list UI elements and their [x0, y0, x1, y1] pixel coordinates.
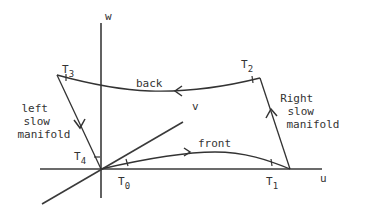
right-manifold-label: Right slow manifold	[280, 92, 339, 131]
left-manifold-label: left slow manifold	[18, 102, 71, 141]
back-label: back	[136, 77, 163, 90]
front-arrow-icon	[184, 148, 190, 156]
t2-label: T2	[241, 58, 253, 74]
t0-tick	[126, 159, 128, 166]
slow-manifold-diagram: w u v T3 T2 T4 T0 T1 front back left slo…	[0, 0, 366, 215]
t4-label: T4	[74, 150, 86, 166]
v-axis-label: v	[192, 100, 199, 113]
front-label: front	[198, 137, 231, 150]
u-axis-label: u	[320, 172, 327, 185]
front-trajectory	[101, 152, 290, 169]
t2-tick	[252, 76, 253, 83]
w-axis-label: w	[105, 10, 112, 23]
t0-label: T0	[118, 175, 130, 191]
t1-label: T1	[266, 175, 278, 191]
t1-tick	[271, 159, 272, 166]
